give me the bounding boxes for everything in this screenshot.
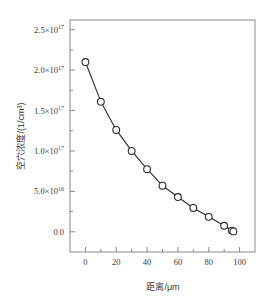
- chart-container: 020406080100 0.05.0×10161.0×10171.5×1017…: [0, 0, 273, 302]
- x-tick-label: 20: [112, 257, 121, 267]
- x-axis-title: 距离/μm: [146, 281, 179, 292]
- data-point-marker: [128, 148, 135, 155]
- x-tick-label: 100: [233, 257, 246, 267]
- data-point-marker: [190, 205, 197, 212]
- data-point-marker: [82, 59, 89, 66]
- data-point-marker: [230, 228, 237, 235]
- x-tick-label: 80: [205, 257, 214, 267]
- data-point-marker: [175, 194, 182, 201]
- x-tick-label: 0: [83, 257, 87, 267]
- data-point-marker: [159, 182, 166, 189]
- x-tick-label: 60: [174, 257, 183, 267]
- y-axis-title: 空穴浓度/(1/cm³): [15, 103, 26, 170]
- data-point-marker: [144, 166, 151, 173]
- data-point-marker: [97, 98, 104, 105]
- hole-concentration-line-chart: 020406080100 0.05.0×10161.0×10171.5×1017…: [0, 0, 273, 302]
- data-point-marker: [221, 222, 228, 229]
- data-point-marker: [205, 213, 212, 220]
- x-tick-label: 40: [143, 257, 152, 267]
- data-point-marker: [113, 127, 120, 134]
- y-tick-label: 0.0: [53, 227, 64, 237]
